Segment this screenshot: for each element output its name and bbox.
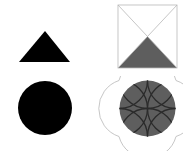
figure-canvas [0, 0, 183, 151]
figure-cell-circle-solid [0, 76, 92, 151]
square-with-diagonals-svg [92, 0, 183, 76]
petal-arc-top [119, 76, 176, 81]
figure-cell-triangle-solid [0, 0, 92, 76]
solid-black-circle-shape [18, 81, 72, 135]
petal-arc-right [176, 81, 183, 137]
gray-circle-with-arcs-svg [92, 76, 183, 151]
solid-black-triangle-svg [0, 0, 92, 76]
figure-cell-circle-arcs [92, 76, 183, 151]
solid-black-triangle-shape [19, 31, 70, 62]
figure-cell-square-diagonals [92, 0, 183, 76]
petal-arc-left [99, 81, 119, 137]
petal-arc-bottom [119, 137, 176, 152]
gray-bottom-triangle-shape [118, 37, 177, 69]
solid-black-circle-svg [0, 76, 92, 151]
